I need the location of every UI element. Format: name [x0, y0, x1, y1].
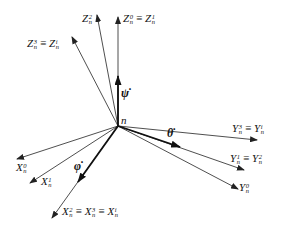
label-base: Z [27, 37, 33, 49]
label-base: Z [49, 37, 55, 49]
label-sub: n [237, 159, 240, 165]
label-z3-zi: Z3n≡Zin [27, 38, 59, 50]
sup-sub: 2n [259, 154, 262, 166]
equiv-symbol: ≡ [40, 37, 46, 49]
equiv-symbol: ≡ [243, 152, 249, 164]
label-z2: Z2n [82, 13, 92, 25]
label-x0: X0n [16, 162, 26, 174]
label-base: X [85, 205, 92, 217]
equiv-symbol: ≡ [245, 122, 251, 134]
sup-sub: 1n [48, 177, 51, 189]
label-base: X [62, 205, 69, 217]
sup-sub: 1n [152, 14, 155, 26]
sup-sub: in [115, 207, 118, 219]
sup-sub: 2n [69, 207, 72, 219]
sup-sub: 2n [89, 14, 92, 26]
sup-sub: 0n [246, 183, 249, 195]
label-sub: n [92, 212, 95, 218]
z3-zi-axis [72, 37, 118, 126]
phi-dot-arrow [78, 126, 118, 182]
label-base: Z [145, 12, 151, 24]
label-sub: n [69, 212, 72, 218]
sup-sub: 3n [34, 39, 37, 51]
label-base: X [41, 175, 48, 187]
label-sub: n [246, 188, 249, 194]
equiv-symbol: ≡ [136, 12, 142, 24]
label-y0: Y0n [239, 182, 249, 194]
label-base: Y [230, 152, 236, 164]
x0-axis [17, 126, 118, 159]
label-x2-x3-xi: X2n≡X3n≡Xin [62, 206, 118, 218]
label-x1: X1n [41, 176, 51, 188]
sup-sub: 0n [130, 14, 133, 26]
sup-sub: in [56, 39, 59, 51]
label-sub: n [23, 168, 26, 174]
theta-dot-label: θ̇ [167, 127, 173, 139]
label-sub: n [152, 19, 155, 25]
label-base: Y [239, 181, 245, 193]
label-y1-y2: Y1n≡Y2n [230, 153, 262, 165]
equiv-symbol: ≡ [75, 205, 81, 217]
label-sub: n [259, 159, 262, 165]
label-sub: n [130, 19, 133, 25]
label-sub: n [48, 182, 51, 188]
axes-drawing [0, 0, 286, 229]
sup-sub: 3n [92, 207, 95, 219]
label-base: X [16, 161, 23, 173]
coordinate-frame-diagram: n Z2n Z0n≡Z1n Z3n≡Zin ψ̇ Y3n≡Yin θ̇ Y1n≡… [0, 0, 286, 229]
origin-label: n [121, 115, 127, 126]
sup-sub: 3n [239, 124, 242, 136]
z2-axis [97, 15, 118, 126]
label-base: Z [82, 12, 88, 24]
label-sub: n [56, 44, 59, 50]
label-sub: n [115, 212, 118, 218]
label-base: Y [232, 122, 238, 134]
label-z0-z1: Z0n≡Z1n [123, 13, 155, 25]
label-y3-yi: Y3n≡Yin [232, 123, 264, 135]
label-sub: n [239, 129, 242, 135]
sup-sub: 1n [237, 154, 240, 166]
sup-sub: in [261, 124, 264, 136]
label-sub: n [34, 44, 37, 50]
psi-dot-label: ψ̇ [121, 87, 129, 99]
label-base: Y [254, 122, 260, 134]
label-sub: n [261, 129, 264, 135]
label-sub: n [89, 19, 92, 25]
sup-sub: 0n [23, 163, 26, 175]
label-base: Z [123, 12, 129, 24]
y0-axis [118, 126, 238, 189]
phi-dot-label: φ̇ [74, 160, 81, 172]
equiv-symbol: ≡ [98, 205, 104, 217]
label-base: Y [252, 152, 258, 164]
label-base: X [107, 205, 114, 217]
